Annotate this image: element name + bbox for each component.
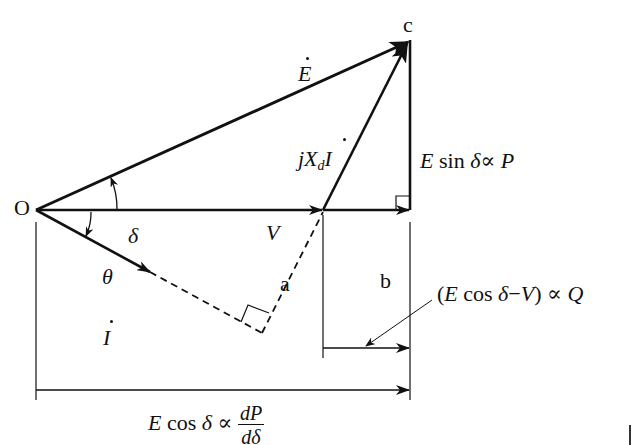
page-edge-mark — [629, 425, 633, 445]
proportional-symbol: ∝ — [480, 148, 495, 173]
phasor-dot-e — [306, 57, 309, 60]
delta-symbol: δ — [470, 148, 480, 173]
label-vector-e: E — [298, 63, 311, 85]
right-angle-mark-b — [396, 196, 410, 210]
label-angle-theta: θ — [102, 266, 113, 288]
vector-e — [36, 42, 408, 210]
label-vector-v: V — [266, 222, 279, 244]
fraction-denominator: dδ — [238, 425, 264, 445]
p-symbol: P — [501, 148, 514, 173]
annotation-e-cos-minus-v: (E cos δ−V) ∝ Q — [437, 283, 583, 305]
dashed-i-extension — [150, 272, 262, 333]
proportional-symbol: ∝ — [542, 281, 568, 306]
label-angle-delta: δ — [128, 225, 138, 247]
jx-subscript: d — [318, 158, 325, 173]
angle-theta-arc — [86, 212, 91, 236]
annotation-e-sin-delta: E sin δ∝ P — [420, 150, 514, 172]
e-symbol: E — [148, 410, 161, 435]
label-c: c — [403, 14, 413, 36]
label-vector-jxdi: jXdI — [298, 148, 332, 173]
fraction-numerator: dP — [238, 403, 264, 425]
annotation-e-cos-delta: E cos δ ∝ dPdδ — [148, 403, 264, 445]
proportional-symbol: ∝ — [212, 410, 238, 435]
minus-symbol: − — [508, 281, 520, 306]
leader-q — [366, 300, 432, 346]
sin-text: sin — [433, 148, 470, 173]
phasor-dot-i — [110, 320, 113, 323]
cos-text: cos — [458, 281, 498, 306]
v-symbol: V — [521, 281, 534, 306]
jx-text: jX — [298, 146, 318, 171]
label-a: a — [280, 273, 290, 295]
angle-delta-arc — [111, 178, 117, 210]
right-angle-mark-i — [241, 305, 269, 322]
delta-symbol: δ — [498, 281, 508, 306]
phasor-dot-jxdi — [343, 138, 346, 141]
e-symbol: E — [444, 281, 457, 306]
jx-i-text: I — [325, 146, 332, 171]
label-vector-i: I — [103, 327, 110, 349]
phasor-diagram — [0, 0, 633, 445]
paren-close: ) — [534, 281, 541, 306]
label-b: b — [380, 270, 391, 292]
delta-symbol: δ — [202, 410, 212, 435]
derivative-fraction: dPdδ — [238, 403, 264, 445]
vector-jxdi — [323, 44, 407, 210]
e-symbol: E — [420, 148, 433, 173]
q-symbol: Q — [567, 281, 583, 306]
cos-text: cos — [161, 410, 201, 435]
label-origin: O — [14, 197, 30, 219]
